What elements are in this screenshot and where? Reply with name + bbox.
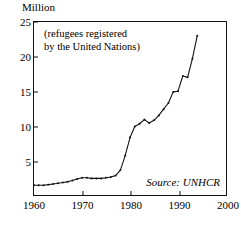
y-tick-label: 25 [20,17,31,28]
data-point [38,184,40,186]
data-point [191,58,193,60]
data-point [182,75,184,77]
data-point [91,177,93,179]
x-tick-label: 2000 [217,200,239,211]
data-point [71,179,73,181]
data-point [81,177,83,179]
data-point [119,169,121,171]
refugees-line-chart: Million 510152025 19601970198019902000 (… [0,0,241,228]
y-tick-label: 20 [20,52,31,63]
data-point [134,126,136,128]
data-point [163,108,165,110]
data-point [187,76,189,78]
y-tick-label: 5 [26,157,32,168]
data-point [124,155,126,157]
data-point [143,119,145,121]
data-point [196,35,198,37]
data-point [172,91,174,93]
data-point [110,176,112,178]
data-point [115,175,117,177]
data-point [33,184,35,186]
data-point [47,184,49,186]
data-point [86,177,88,179]
data-point [100,177,102,179]
data-point [129,137,131,139]
data-point [167,102,169,104]
x-tick-label: 1960 [23,200,45,211]
plot-area: 510152025 19601970198019902000 (refugees… [33,21,227,196]
data-point [177,90,179,92]
x-tick-label: 1970 [72,200,94,211]
data-point [52,183,54,185]
data-point [158,114,160,116]
x-tick-label: 1990 [169,200,191,211]
y-axis-label: Million [22,1,55,14]
data-point [105,177,107,179]
data-point [76,178,78,180]
data-point [148,122,150,124]
source-note: Source: UNHCR [146,176,220,188]
data-point [62,182,64,184]
x-tick-label: 1980 [120,200,142,211]
data-point [95,177,97,179]
y-tick-label: 15 [20,87,31,98]
data-point [153,119,155,121]
data-point [139,123,141,125]
y-tick-label: 10 [20,122,31,133]
data-point [67,181,69,183]
chart-annotation: (refugees registered by the United Natio… [44,28,140,53]
data-point [43,184,45,186]
data-point [57,182,59,184]
